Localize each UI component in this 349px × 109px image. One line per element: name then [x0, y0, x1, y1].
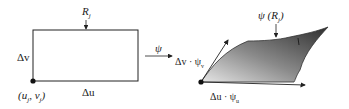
tangent-vector-u: [201, 82, 305, 85]
mapped-corner-point: [198, 79, 203, 84]
corner-coordinates-label: (uj, vj): [18, 90, 45, 104]
tangent-v-label: Δv · ψv: [175, 57, 204, 69]
mapping-label: ψ: [155, 43, 162, 54]
mapped-surface-patch: [201, 27, 328, 82]
tangent-u-label: Δu · ψu: [210, 92, 239, 104]
delta-v-label: Δv: [17, 52, 30, 63]
diagram-canvas: [0, 0, 349, 109]
image-region-label: ψ (Rj): [258, 10, 284, 24]
delta-u-label: Δu: [82, 87, 95, 98]
parameter-rectangle: [33, 30, 138, 81]
region-label: Rj: [82, 6, 91, 20]
corner-point: [30, 78, 35, 83]
